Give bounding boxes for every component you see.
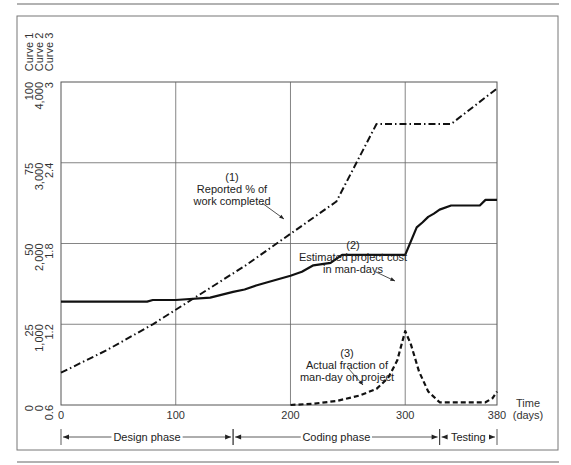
series-annotation: (2) — [346, 239, 359, 251]
series-annotation: (1) — [225, 171, 238, 183]
y-tick-label: 0.6 — [43, 405, 55, 420]
series-annotation: Actual fraction of — [306, 359, 389, 371]
phase-label: Coding phase — [302, 431, 370, 443]
arrow-right-icon — [432, 435, 438, 440]
x-tick-label: 0 — [58, 409, 64, 421]
x-tick-label: 380 — [488, 409, 506, 421]
x-tick-label: 200 — [281, 409, 299, 421]
chart-figure: Curve 1Curve 2Curve 3025507510001,0002,0… — [0, 0, 571, 465]
x-tick-label: 300 — [396, 409, 414, 421]
phase-timeline: Design phaseCoding phaseTesting — [61, 429, 497, 445]
y-axes: Curve 1Curve 2Curve 3025507510001,0002,0… — [23, 33, 55, 421]
y-tick-label: 3 — [43, 82, 55, 88]
series-annotation: (3) — [340, 347, 353, 359]
phase-label: Testing — [451, 431, 486, 443]
figure-frame — [17, 16, 558, 450]
arrow-right-icon — [225, 435, 231, 440]
arrow-left-icon — [235, 435, 241, 440]
series-annotation: Reported % of — [197, 183, 268, 195]
y-tick-label: 2.4 — [43, 163, 55, 178]
x-axis-label: (days) — [513, 409, 544, 421]
plot-grid — [61, 82, 497, 405]
x-axis-label: Time — [516, 397, 540, 409]
arrow-left-icon — [442, 435, 448, 440]
series-line — [61, 89, 497, 373]
y-tick-label: 1.2 — [43, 324, 55, 339]
series-annotation: work completed — [192, 195, 270, 207]
arrow-right-icon — [489, 435, 495, 440]
arrowhead-icon — [279, 215, 284, 219]
series-annotation: Estimated project cost — [299, 251, 407, 263]
x-axis: 0100200300380Time(days) — [58, 397, 543, 421]
y-tick-label: 1.8 — [43, 244, 55, 259]
phase-label: Design phase — [113, 431, 180, 443]
axis-header: Curve 3 — [43, 33, 55, 72]
series-annotation: in man-days — [323, 263, 383, 275]
series-lines — [61, 89, 497, 406]
x-tick-label: 100 — [167, 409, 185, 421]
series-annotation: man-day on project — [300, 371, 394, 383]
arrow-left-icon — [63, 435, 69, 440]
